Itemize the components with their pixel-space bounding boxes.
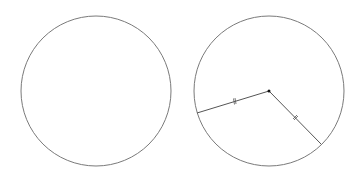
center-point bbox=[268, 90, 271, 93]
diagram-canvas bbox=[0, 0, 362, 184]
right-circle-group bbox=[194, 16, 344, 166]
left-circle bbox=[21, 16, 171, 166]
radius-left bbox=[197, 91, 269, 113]
